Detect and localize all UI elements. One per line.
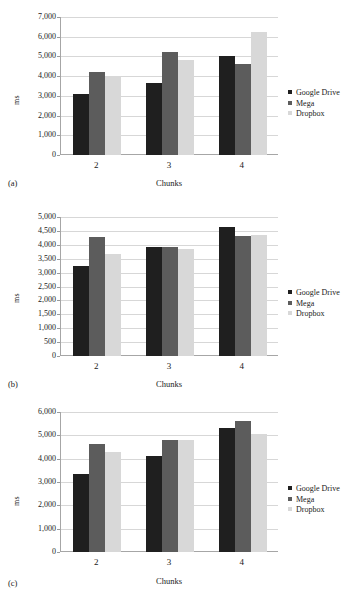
bar-dropbox[interactable]	[178, 249, 194, 356]
bar-dropbox[interactable]	[251, 32, 267, 155]
y-tick-label: 1,000	[38, 131, 56, 139]
y-tick-label: 4,000	[38, 455, 56, 463]
y-tick-label: 2,000	[38, 112, 56, 120]
legend-label: Dropbox	[296, 309, 324, 320]
bar-mega[interactable]	[162, 247, 178, 356]
legend-item[interactable]: Mega	[288, 99, 340, 110]
legend-swatch-icon	[288, 507, 292, 511]
bar-group	[61, 17, 134, 155]
panel-tag-a: (a)	[8, 178, 17, 188]
panel-tag-b: (b)	[8, 379, 18, 389]
legend-item[interactable]: Dropbox	[288, 309, 340, 320]
legend-swatch-icon	[288, 90, 292, 94]
y-tick-label: 2,000	[38, 501, 56, 509]
legend-swatch-icon	[288, 497, 292, 501]
chart-panel-c: ms 01,0002,0003,0004,0005,0006,000 234 C…	[0, 398, 361, 605]
chart-panel-b: ms 05001,0001,5002,0002,5003,0003,5004,0…	[0, 198, 361, 398]
y-tick-label: 1,500	[38, 310, 56, 318]
plot-area-a	[60, 17, 278, 155]
y-tick-label: 5,000	[38, 52, 56, 60]
legend-label: Mega	[296, 495, 314, 506]
bar-google-drive[interactable]	[146, 83, 162, 155]
legend-item[interactable]: Dropbox	[288, 505, 340, 516]
bar-mega[interactable]	[235, 421, 251, 552]
legend-swatch-icon	[288, 111, 292, 115]
bar-google-drive[interactable]	[219, 56, 235, 155]
y-tick-label: 4,500	[38, 227, 56, 235]
legend-item[interactable]: Mega	[288, 299, 340, 310]
y-tick-label: 4,000	[38, 72, 56, 80]
figure-page: ms 01,0002,0003,0004,0005,0006,0007,000 …	[0, 0, 361, 605]
bar-mega[interactable]	[162, 52, 178, 156]
legend-swatch-icon	[288, 311, 292, 315]
bar-mega[interactable]	[235, 236, 251, 356]
legend-item[interactable]: Google Drive	[288, 484, 340, 495]
y-axis-ticks-b: 05001,0001,5002,0002,5003,0003,5004,0004…	[22, 198, 56, 398]
y-tick-label: 0	[52, 548, 56, 556]
bar-mega[interactable]	[89, 72, 105, 155]
bar-series-group	[61, 17, 278, 155]
y-axis-label-c: ms	[12, 496, 21, 506]
y-tick-label: 5,000	[38, 431, 56, 439]
bar-dropbox[interactable]	[105, 76, 121, 155]
y-axis-label-a: ms	[12, 95, 21, 105]
legend-item[interactable]: Mega	[288, 495, 340, 506]
bar-mega[interactable]	[89, 444, 105, 552]
bar-group	[134, 412, 207, 552]
x-tick-label: 3	[133, 557, 206, 567]
legend-swatch-icon	[288, 101, 292, 105]
legend-c: Google DriveMegaDropbox	[288, 484, 340, 516]
x-axis-label-a: Chunks	[60, 178, 278, 188]
legend-a: Google DriveMegaDropbox	[288, 88, 340, 120]
y-tick-label: 0	[52, 151, 56, 159]
bar-google-drive[interactable]	[146, 247, 162, 356]
x-tick-label: 3	[133, 361, 206, 371]
y-tick-label: 2,000	[38, 296, 56, 304]
x-axis-label-b: Chunks	[60, 379, 278, 389]
legend-item[interactable]: Google Drive	[288, 288, 340, 299]
bar-google-drive[interactable]	[73, 94, 89, 156]
y-axis-label-b: ms	[12, 293, 21, 303]
y-tick-label: 6,000	[38, 408, 56, 416]
legend-label: Dropbox	[296, 109, 324, 120]
bar-dropbox[interactable]	[178, 440, 194, 552]
bar-google-drive[interactable]	[73, 266, 89, 356]
plot-area-c	[60, 412, 278, 552]
bar-mega[interactable]	[235, 64, 251, 155]
legend-swatch-icon	[288, 301, 292, 305]
bar-dropbox[interactable]	[251, 434, 267, 552]
bar-group	[206, 412, 279, 552]
legend-label: Google Drive	[296, 484, 340, 495]
bar-google-drive[interactable]	[73, 474, 89, 552]
x-tick-label: 4	[205, 361, 278, 371]
bar-google-drive[interactable]	[146, 456, 162, 552]
bar-dropbox[interactable]	[105, 254, 121, 356]
bar-google-drive[interactable]	[219, 428, 235, 552]
y-axis-ticks-c: 01,0002,0003,0004,0005,0006,000	[22, 398, 56, 605]
bar-dropbox[interactable]	[105, 452, 121, 552]
x-tick-label: 2	[60, 361, 133, 371]
legend-b: Google DriveMegaDropbox	[288, 288, 340, 320]
bar-series-group	[61, 217, 278, 356]
legend-item[interactable]: Google Drive	[288, 88, 340, 99]
bar-group	[206, 217, 279, 356]
bar-mega[interactable]	[162, 440, 178, 552]
y-tick-label: 1,000	[38, 324, 56, 332]
bar-google-drive[interactable]	[219, 227, 235, 356]
y-tick-label: 500	[44, 338, 56, 346]
y-tick-label: 6,000	[38, 33, 56, 41]
bar-mega[interactable]	[89, 237, 105, 356]
y-axis-ticks-a: 01,0002,0003,0004,0005,0006,0007,000	[22, 0, 56, 198]
x-tick-label: 2	[60, 557, 133, 567]
y-tick-label: 2,500	[38, 283, 56, 291]
legend-item[interactable]: Dropbox	[288, 109, 340, 120]
legend-label: Google Drive	[296, 288, 340, 299]
legend-label: Mega	[296, 99, 314, 110]
bar-dropbox[interactable]	[251, 235, 267, 356]
panel-tag-c: (c)	[8, 578, 17, 588]
x-tick-label: 4	[205, 557, 278, 567]
legend-swatch-icon	[288, 486, 292, 490]
y-tick-label: 3,500	[38, 255, 56, 263]
y-tick-label: 5,000	[38, 213, 56, 221]
bar-dropbox[interactable]	[178, 60, 194, 155]
